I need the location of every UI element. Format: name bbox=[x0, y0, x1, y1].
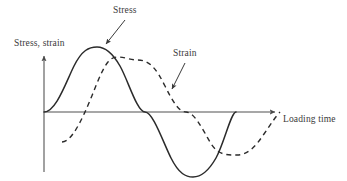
strain-annotation-label: Strain bbox=[173, 49, 197, 59]
stress-leader-line bbox=[106, 20, 125, 44]
x-axis-label: Loading time bbox=[283, 115, 336, 125]
figure-canvas bbox=[0, 0, 347, 181]
strain-leader-line bbox=[172, 63, 185, 89]
y-axis-label: Stress, strain bbox=[14, 39, 65, 49]
stress-annotation-label: Stress bbox=[113, 6, 137, 16]
stress-strain-loading-time-figure: Stress, strain Stress Strain Loading tim… bbox=[0, 0, 347, 181]
strain-curve bbox=[62, 57, 280, 155]
